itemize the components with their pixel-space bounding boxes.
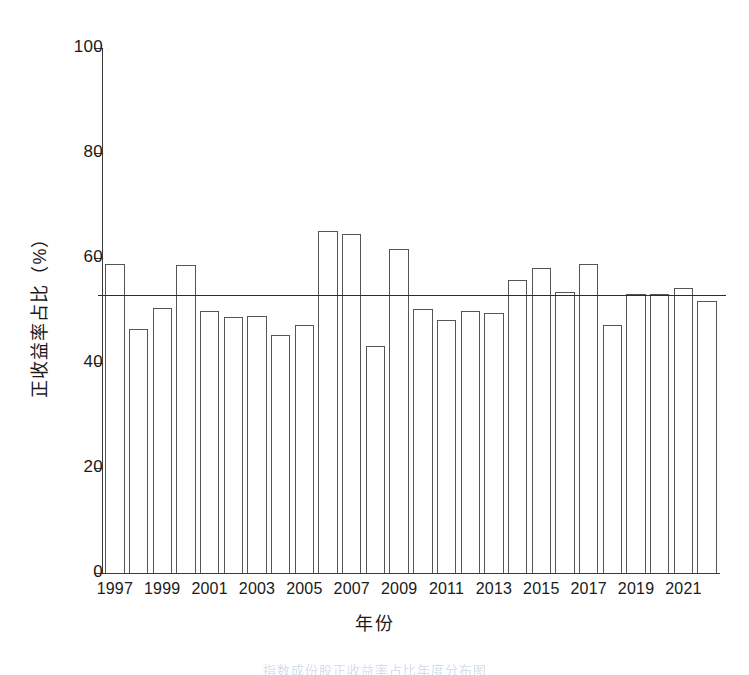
gridline — [103, 153, 111, 154]
bar[interactable] — [389, 249, 408, 573]
bar[interactable] — [342, 234, 361, 573]
figure-caption: 指数成份股正收益率占比年度分布图 — [0, 660, 749, 675]
bar[interactable] — [176, 265, 195, 573]
y-axis-tick-label: 0 — [17, 562, 103, 582]
bar[interactable] — [437, 320, 456, 573]
bar[interactable] — [224, 317, 243, 573]
bar[interactable] — [674, 288, 693, 573]
gridline — [103, 48, 111, 49]
bar-chart-figure: 020406080100 正收益率占比（%） 19971999200120032… — [0, 0, 749, 675]
bar[interactable] — [461, 311, 480, 573]
bar[interactable] — [650, 294, 669, 573]
bar[interactable] — [413, 309, 432, 573]
bar[interactable] — [153, 308, 172, 573]
bar[interactable] — [366, 346, 385, 573]
gridline — [103, 258, 111, 259]
bar[interactable] — [247, 316, 266, 573]
bar[interactable] — [484, 313, 503, 573]
bar[interactable] — [697, 301, 716, 573]
bar[interactable] — [271, 335, 290, 573]
x-axis-line — [103, 573, 720, 574]
y-axis-tick-label: 80 — [17, 142, 103, 162]
x-axis-tick-label: 2021 — [655, 580, 711, 598]
y-axis-tick-label: 100 — [17, 37, 103, 57]
bar[interactable] — [318, 231, 337, 573]
y-axis-title: 正收益率占比（%） — [25, 213, 51, 413]
plot-area — [103, 48, 719, 573]
bar[interactable] — [508, 280, 527, 573]
bar[interactable] — [626, 294, 645, 573]
bar[interactable] — [105, 264, 124, 573]
bar[interactable] — [200, 311, 219, 574]
mean-reference-line — [98, 295, 726, 296]
x-axis-title: 年份 — [0, 609, 749, 635]
bar[interactable] — [532, 268, 551, 573]
bar[interactable] — [129, 329, 148, 573]
y-axis-ticks: 020406080100 — [0, 0, 103, 675]
bar[interactable] — [295, 325, 314, 573]
bar[interactable] — [555, 292, 574, 573]
bar[interactable] — [603, 325, 622, 573]
bar[interactable] — [579, 264, 598, 573]
y-axis-tick-label: 20 — [17, 457, 103, 477]
